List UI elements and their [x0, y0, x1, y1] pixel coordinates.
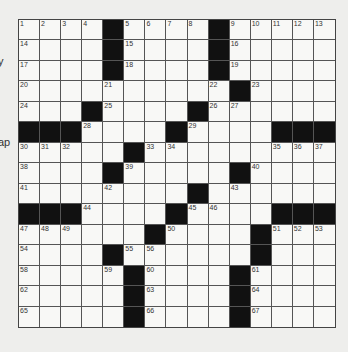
grid-cell[interactable] [145, 61, 166, 81]
grid-cell[interactable] [188, 61, 209, 81]
grid-cell[interactable]: 2 [40, 20, 61, 40]
grid-cell[interactable] [166, 184, 187, 204]
grid-cell[interactable]: 56 [145, 245, 166, 265]
grid-cell[interactable]: 34 [166, 143, 187, 163]
grid-cell[interactable] [40, 40, 61, 60]
grid-cell[interactable]: 13 [314, 20, 335, 40]
grid-cell[interactable]: 10 [251, 20, 272, 40]
grid-cell[interactable]: 53 [314, 225, 335, 245]
grid-cell[interactable]: 4 [82, 20, 103, 40]
grid-cell[interactable]: 64 [251, 286, 272, 306]
grid-cell[interactable] [272, 163, 293, 183]
grid-cell[interactable] [188, 307, 209, 327]
grid-cell[interactable] [82, 184, 103, 204]
grid-cell[interactable] [124, 225, 145, 245]
grid-cell[interactable]: 66 [145, 307, 166, 327]
grid-cell[interactable] [230, 225, 251, 245]
grid-cell[interactable] [230, 245, 251, 265]
grid-cell[interactable] [166, 81, 187, 101]
grid-cell[interactable] [40, 163, 61, 183]
grid-cell[interactable] [40, 61, 61, 81]
grid-cell[interactable] [82, 307, 103, 327]
grid-cell[interactable] [314, 163, 335, 183]
grid-cell[interactable]: 6 [145, 20, 166, 40]
grid-cell[interactable] [188, 163, 209, 183]
grid-cell[interactable] [40, 266, 61, 286]
grid-cell[interactable] [103, 286, 124, 306]
grid-cell[interactable]: 15 [124, 40, 145, 60]
grid-cell[interactable]: 59 [103, 266, 124, 286]
grid-cell[interactable] [82, 40, 103, 60]
grid-cell[interactable] [209, 286, 230, 306]
grid-cell[interactable] [61, 307, 82, 327]
grid-cell[interactable] [251, 61, 272, 81]
grid-cell[interactable] [124, 184, 145, 204]
grid-cell[interactable] [272, 102, 293, 122]
grid-cell[interactable] [82, 81, 103, 101]
grid-cell[interactable] [314, 245, 335, 265]
grid-cell[interactable]: 41 [19, 184, 40, 204]
grid-cell[interactable] [166, 245, 187, 265]
grid-cell[interactable] [145, 102, 166, 122]
grid-cell[interactable] [82, 61, 103, 81]
grid-cell[interactable]: 9 [230, 20, 251, 40]
grid-cell[interactable]: 37 [314, 143, 335, 163]
grid-cell[interactable]: 21 [103, 81, 124, 101]
grid-cell[interactable] [61, 184, 82, 204]
grid-cell[interactable] [188, 81, 209, 101]
grid-cell[interactable] [82, 163, 103, 183]
grid-cell[interactable] [145, 81, 166, 101]
grid-cell[interactable] [209, 163, 230, 183]
grid-cell[interactable] [251, 122, 272, 142]
grid-cell[interactable]: 51 [272, 225, 293, 245]
grid-cell[interactable] [230, 122, 251, 142]
grid-cell[interactable]: 23 [251, 81, 272, 101]
grid-cell[interactable]: 65 [19, 307, 40, 327]
grid-cell[interactable] [230, 204, 251, 224]
grid-cell[interactable]: 50 [166, 225, 187, 245]
grid-cell[interactable] [61, 266, 82, 286]
grid-cell[interactable]: 63 [145, 286, 166, 306]
grid-cell[interactable] [272, 40, 293, 60]
grid-cell[interactable] [40, 307, 61, 327]
grid-cell[interactable] [314, 184, 335, 204]
grid-cell[interactable]: 60 [145, 266, 166, 286]
grid-cell[interactable] [188, 225, 209, 245]
grid-cell[interactable] [166, 286, 187, 306]
grid-cell[interactable] [293, 266, 314, 286]
grid-cell[interactable] [209, 307, 230, 327]
grid-cell[interactable] [293, 81, 314, 101]
grid-cell[interactable]: 29 [188, 122, 209, 142]
grid-cell[interactable] [166, 266, 187, 286]
grid-cell[interactable] [61, 40, 82, 60]
grid-cell[interactable] [61, 163, 82, 183]
grid-cell[interactable]: 44 [82, 204, 103, 224]
grid-cell[interactable]: 45 [188, 204, 209, 224]
grid-cell[interactable] [188, 245, 209, 265]
grid-cell[interactable] [188, 286, 209, 306]
grid-cell[interactable]: 30 [19, 143, 40, 163]
grid-cell[interactable]: 17 [19, 61, 40, 81]
grid-cell[interactable]: 18 [124, 61, 145, 81]
grid-cell[interactable] [40, 286, 61, 306]
grid-cell[interactable]: 43 [230, 184, 251, 204]
grid-cell[interactable]: 55 [124, 245, 145, 265]
grid-cell[interactable] [293, 245, 314, 265]
grid-cell[interactable] [166, 61, 187, 81]
grid-cell[interactable] [314, 286, 335, 306]
grid-cell[interactable]: 28 [82, 122, 103, 142]
grid-cell[interactable] [82, 286, 103, 306]
grid-cell[interactable]: 33 [145, 143, 166, 163]
grid-cell[interactable] [61, 286, 82, 306]
grid-cell[interactable]: 19 [230, 61, 251, 81]
grid-cell[interactable] [251, 204, 272, 224]
grid-cell[interactable] [40, 245, 61, 265]
grid-cell[interactable] [145, 204, 166, 224]
grid-cell[interactable] [103, 307, 124, 327]
grid-cell[interactable] [209, 122, 230, 142]
grid-cell[interactable] [272, 81, 293, 101]
grid-cell[interactable] [40, 102, 61, 122]
grid-cell[interactable] [103, 122, 124, 142]
grid-cell[interactable] [293, 184, 314, 204]
grid-cell[interactable] [166, 163, 187, 183]
